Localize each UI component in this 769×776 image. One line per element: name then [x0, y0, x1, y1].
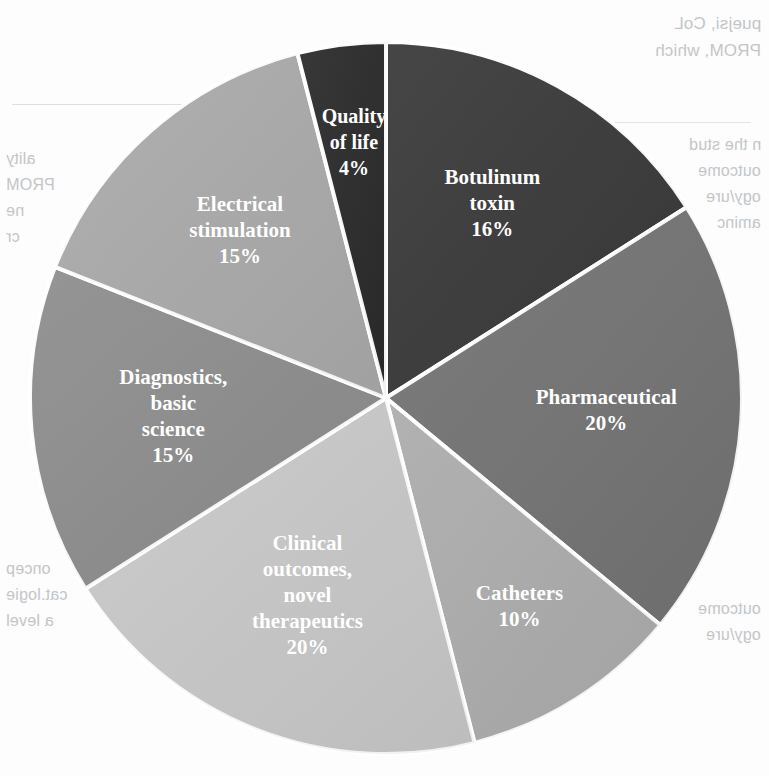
- pie-slice-label-line: of life: [330, 130, 378, 152]
- pie-slice-label-line: therapeutics: [252, 608, 363, 632]
- pie-slice-label-line: outcomes,: [263, 556, 352, 580]
- pie-slice-label-line: 20%: [585, 411, 627, 435]
- pie-slice-label-line: 10%: [499, 607, 541, 631]
- pie-slice-label-line: 4%: [339, 156, 369, 178]
- pie-slice-label-line: Diagnostics,: [119, 365, 227, 389]
- pie-slice-label-line: Clinical: [272, 530, 342, 554]
- pie-slice-label-line: 15%: [152, 443, 194, 467]
- pie-slice-label-line: 20%: [286, 634, 328, 658]
- pie-slice-label-line: Catheters: [476, 581, 563, 605]
- pie-slice-label-line: stimulation: [189, 218, 291, 242]
- pie-slice-label-line: toxin: [470, 190, 516, 214]
- pie-slice-label-line: Pharmaceutical: [536, 385, 677, 409]
- pie-slice-label-line: Quality: [322, 104, 386, 127]
- pie-slice-label-line: 15%: [219, 244, 261, 268]
- pie-chart: Botulinumtoxin16%Pharmaceutical20%Cathet…: [0, 0, 769, 776]
- figure-page: puejsi, CoL PROM, which n the stud outco…: [0, 0, 769, 776]
- pie-slice-label-line: basic: [151, 391, 197, 415]
- pie-slice-label-line: novel: [283, 582, 331, 606]
- pie-slice-label-line: science: [142, 417, 205, 441]
- pie-slice-label-line: 16%: [471, 216, 513, 240]
- pie-chart-svg: Botulinumtoxin16%Pharmaceutical20%Cathet…: [0, 0, 769, 776]
- pie-slice-label-line: Botulinum: [444, 164, 540, 188]
- pie-slice-label-line: Electrical: [197, 192, 283, 216]
